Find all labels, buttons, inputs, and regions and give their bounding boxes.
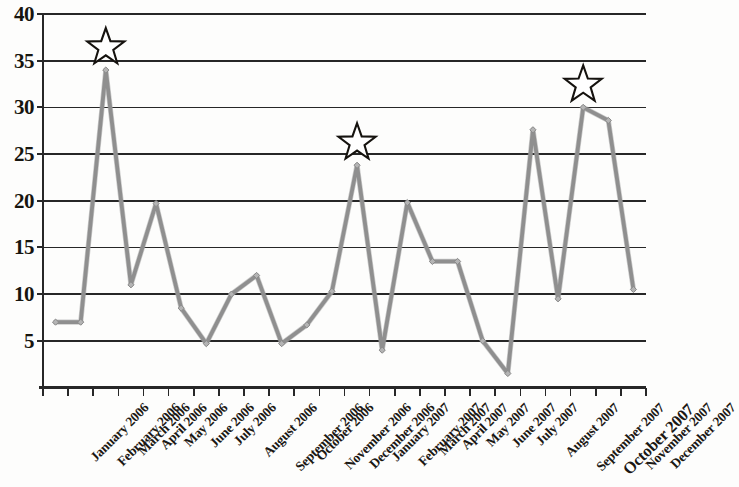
x-tick-label-23: December 2007 bbox=[668, 400, 739, 472]
x-tick-label-22: November 2007 bbox=[643, 400, 716, 473]
star-annotation-21 bbox=[565, 65, 602, 100]
data-series-line bbox=[56, 70, 634, 373]
star-annotations bbox=[87, 28, 601, 159]
star-annotation-2 bbox=[87, 28, 124, 63]
x-axis-ticks bbox=[43, 388, 646, 396]
